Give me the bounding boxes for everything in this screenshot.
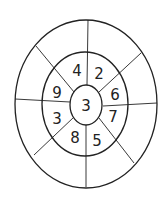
cell-left-upper: 9 <box>52 84 62 102</box>
ring-diagram: 3 4 2 6 7 5 8 3 9 <box>0 0 167 198</box>
center-value: 3 <box>81 97 91 115</box>
cell-top-left: 4 <box>72 62 82 80</box>
cell-left-lower: 3 <box>52 110 62 128</box>
cell-right-upper: 6 <box>110 86 120 104</box>
ring-diagram-svg: 3 4 2 6 7 5 8 3 9 <box>0 0 167 198</box>
cell-bottom-right: 5 <box>92 132 102 150</box>
cell-bottom-left: 8 <box>70 129 80 147</box>
cell-top-right: 2 <box>94 65 104 83</box>
cell-right-lower: 7 <box>108 108 118 126</box>
